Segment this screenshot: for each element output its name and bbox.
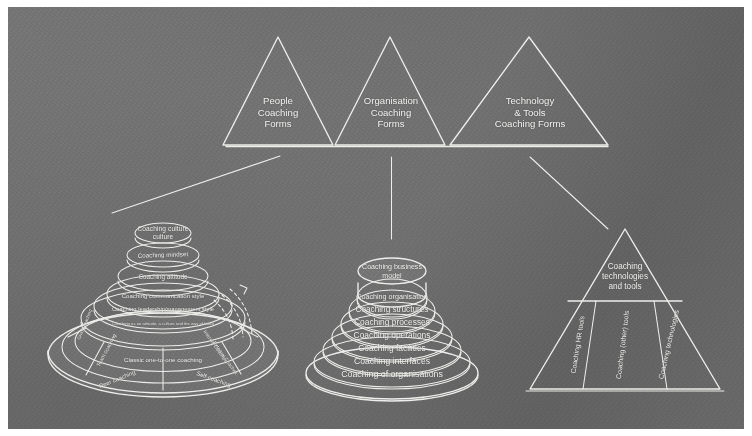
people-tier-label-comm: Coaching communication style bbox=[122, 292, 205, 299]
people-tier-label-living: Coaching as an attitude, a culture and t… bbox=[112, 321, 214, 326]
org-tier-label-processes: Coaching processes bbox=[354, 317, 430, 327]
connector-people bbox=[112, 156, 280, 213]
org-tier-label-of-organisations: Coaching of organisations bbox=[341, 369, 443, 379]
org-tier-label-facilities: Coaching facilities bbox=[358, 343, 426, 353]
people-tier-label: Coaching culture bbox=[137, 225, 188, 233]
diagram-svg: Coaching culture culture Coaching mindse… bbox=[8, 7, 744, 429]
org-tier-label-model-2: model bbox=[382, 272, 402, 280]
chalkboard-canvas: Coaching culture culture Coaching mindse… bbox=[8, 7, 744, 429]
tech-column-other-tools: Coaching (other) tools bbox=[615, 310, 631, 380]
top-triangle-people[interactable] bbox=[223, 37, 333, 145]
people-tier-label-2: culture bbox=[153, 233, 174, 240]
connector-technology bbox=[530, 157, 608, 229]
people-tier-label-mindset: Coaching mindset bbox=[138, 250, 189, 260]
tech-apex-line-1: Coaching bbox=[608, 262, 643, 271]
top-triangle-organisation[interactable] bbox=[335, 37, 445, 145]
people-tier-label-leadership: Coaching leadership/management style bbox=[112, 306, 214, 312]
org-tier-label-interfaces: Coaching interfaces bbox=[354, 356, 430, 366]
org-tier-label-model-1: Coaching business bbox=[362, 263, 422, 271]
org-tier-label-organisation: Coaching organisation bbox=[356, 292, 428, 301]
tech-apex-line-2: technologies bbox=[602, 272, 648, 281]
technology-pyramid[interactable] bbox=[526, 229, 724, 391]
people-tier-label-attitude: Coaching attitude bbox=[138, 273, 188, 281]
tech-apex-line-3: and tools bbox=[608, 282, 641, 291]
org-tier-label-operations: Coaching operations bbox=[354, 330, 431, 340]
org-tier-label-structures: Coaching structures bbox=[356, 305, 429, 314]
people-segment-classic: Classic one-to-one coaching bbox=[124, 356, 203, 363]
top-triangle-technology[interactable] bbox=[450, 37, 608, 145]
tech-column-hr-tools: Coaching HR tools bbox=[570, 315, 587, 374]
